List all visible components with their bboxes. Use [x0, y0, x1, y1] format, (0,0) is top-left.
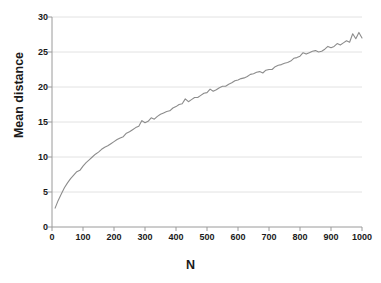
tick-marks: [48, 17, 362, 231]
plot-area: [0, 0, 381, 283]
gridlines: [52, 17, 362, 192]
data-series-line: [55, 32, 362, 208]
chart-container: Mean distance 0 5 10 15 20 25 30 0 100 2…: [0, 0, 381, 283]
